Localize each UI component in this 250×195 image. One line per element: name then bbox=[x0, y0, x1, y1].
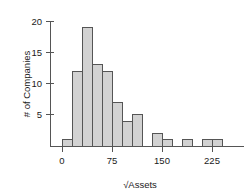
histogram-bar bbox=[62, 140, 72, 146]
histogram-bar bbox=[102, 71, 112, 146]
histogram-bar bbox=[202, 140, 212, 146]
x-tick-label: 150 bbox=[154, 155, 170, 166]
histogram-bar bbox=[122, 121, 132, 146]
y-tick-label: 10 bbox=[31, 78, 42, 89]
y-tick-label: 20 bbox=[31, 16, 42, 27]
histogram-bar bbox=[152, 134, 162, 147]
histogram-chart: 5101520075150225√Assets# of Companies bbox=[0, 0, 250, 195]
histogram-bar bbox=[182, 140, 192, 146]
x-tick-label: 0 bbox=[59, 155, 64, 166]
x-axis-title: √Assets bbox=[123, 179, 157, 190]
histogram-bar bbox=[112, 102, 122, 146]
histogram-bar bbox=[82, 27, 92, 146]
histogram-bar bbox=[212, 140, 222, 146]
histogram-bar bbox=[132, 115, 142, 146]
y-axis-title: # of Companies bbox=[21, 50, 32, 117]
y-tick-label: 5 bbox=[37, 109, 42, 120]
histogram-plot-area: 5101520075150225√Assets# of Companies bbox=[0, 0, 250, 195]
histogram-bar bbox=[162, 140, 172, 146]
x-tick-label: 75 bbox=[107, 155, 118, 166]
histogram-bar bbox=[72, 71, 82, 146]
x-tick-label: 225 bbox=[204, 155, 220, 166]
histogram-bar bbox=[92, 65, 102, 146]
y-tick-label: 15 bbox=[31, 47, 42, 58]
